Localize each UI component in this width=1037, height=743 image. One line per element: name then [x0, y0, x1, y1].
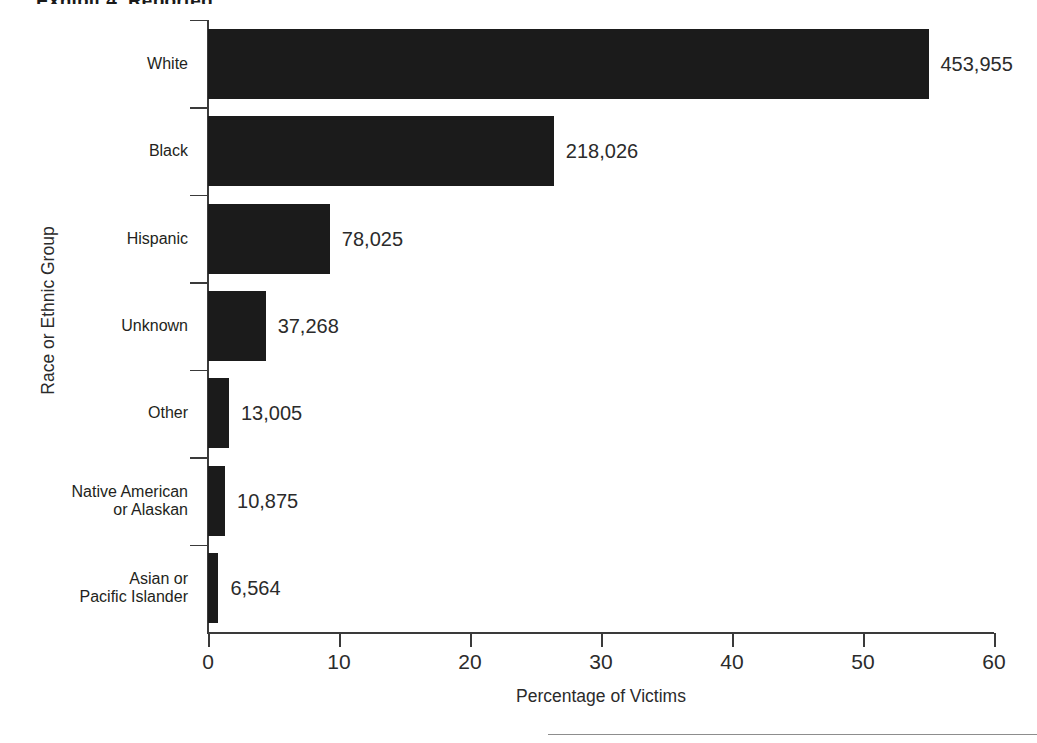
- bar-value-label: 10,875: [237, 489, 298, 512]
- x-axis-tick: [994, 633, 996, 647]
- bar-value-label: 37,268: [278, 314, 339, 337]
- chart-figure: Exhibit 4. Reported Race or Ethnic Group…: [0, 0, 1037, 743]
- x-axis-tick-label: 60: [964, 650, 1024, 674]
- category-label: Hispanic: [0, 195, 188, 282]
- y-axis-tick: [190, 20, 208, 21]
- bar-value-label: 78,025: [342, 227, 403, 250]
- bar: [208, 29, 929, 99]
- x-axis-tick: [470, 633, 472, 647]
- bar-value-label: 6,564: [230, 577, 280, 600]
- y-axis-tick: [190, 457, 208, 458]
- category-label: Unknown: [0, 282, 188, 369]
- bar: [208, 204, 330, 274]
- x-axis-tick-label: 30: [571, 650, 631, 674]
- bar: [208, 291, 266, 361]
- x-axis-tick: [339, 633, 341, 647]
- bar-row: 78,025: [208, 204, 994, 274]
- bar-row: 10,875: [208, 466, 994, 536]
- y-axis-tick: [190, 545, 208, 546]
- bar: [208, 378, 229, 448]
- y-axis-tick: [190, 370, 208, 371]
- category-label: Black: [0, 107, 188, 194]
- bar-value-label: 218,026: [566, 140, 638, 163]
- footer-divider: [548, 734, 1037, 735]
- figure-title-cropped: Exhibit 4. Reported: [36, 0, 456, 4]
- x-axis-tick-label: 0: [178, 650, 238, 674]
- x-axis-tick: [732, 633, 734, 647]
- category-label-text: White: [0, 55, 188, 73]
- bar-value-label: 13,005: [241, 402, 302, 425]
- x-axis-tick-label: 50: [833, 650, 893, 674]
- category-label: Native American or Alaskan: [0, 457, 188, 544]
- y-axis-tick: [190, 282, 208, 283]
- x-axis-tick: [208, 633, 210, 647]
- bar: [208, 466, 225, 536]
- x-axis-tick: [601, 633, 603, 647]
- category-label-text: Unknown: [0, 317, 188, 335]
- bar: [208, 553, 218, 623]
- bar-value-label: 453,955: [941, 52, 1013, 75]
- bar-row: 13,005: [208, 378, 994, 448]
- bar: [208, 116, 554, 186]
- category-label-text: Native American or Alaskan: [0, 483, 188, 519]
- y-axis-tick: [190, 195, 208, 196]
- category-label: White: [0, 20, 188, 107]
- bar-row: 6,564: [208, 553, 994, 623]
- category-label-text: Black: [0, 142, 188, 160]
- x-axis-tick-label: 40: [702, 650, 762, 674]
- category-label-text: Other: [0, 404, 188, 422]
- category-label-text: Hispanic: [0, 230, 188, 248]
- category-label: Asian or Pacific Islander: [0, 545, 188, 632]
- x-axis-tick-label: 10: [309, 650, 369, 674]
- x-axis-tick-label: 20: [440, 650, 500, 674]
- category-label-text: Asian or Pacific Islander: [0, 570, 188, 606]
- bar-row: 37,268: [208, 291, 994, 361]
- x-axis-tick: [863, 633, 865, 647]
- bar-row: 453,955: [208, 29, 994, 99]
- category-label: Other: [0, 370, 188, 457]
- bar-row: 218,026: [208, 116, 994, 186]
- y-axis-tick: [190, 107, 208, 108]
- x-axis-title: Percentage of Victims: [208, 686, 994, 707]
